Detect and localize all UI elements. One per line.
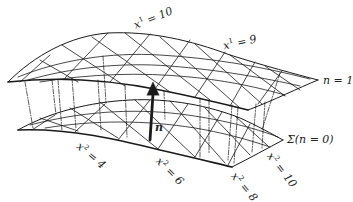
label-surface-sigma: Σ(n = 0) [287, 134, 334, 145]
label-surface-n1: n = 1 [323, 75, 353, 86]
upper-surface [8, 33, 318, 110]
label-normal-n: n [155, 122, 163, 133]
